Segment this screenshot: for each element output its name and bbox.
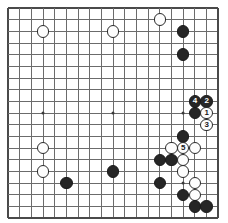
- stone-white[interactable]: [189, 177, 201, 189]
- stone-white[interactable]: [165, 142, 177, 154]
- stone-black-move-2[interactable]: 2: [200, 95, 212, 107]
- hoshi-point: [42, 112, 45, 115]
- stone-black[interactable]: [177, 130, 189, 142]
- stone-white[interactable]: [189, 142, 201, 154]
- stone-white[interactable]: [189, 189, 201, 201]
- stone-black[interactable]: [189, 107, 201, 119]
- stone-white[interactable]: [154, 13, 166, 25]
- go-board-diagram: 42135: [0, 0, 228, 223]
- stone-move-number: 2: [204, 97, 208, 105]
- stone-black-move-4[interactable]: 4: [189, 95, 201, 107]
- hoshi-point: [182, 112, 185, 115]
- stone-white[interactable]: [37, 25, 49, 37]
- stone-move-number: 1: [204, 109, 208, 117]
- stone-black[interactable]: [177, 189, 189, 201]
- stone-black[interactable]: [200, 200, 212, 212]
- stone-black[interactable]: [154, 154, 166, 166]
- stone-white-move-3[interactable]: 3: [200, 119, 212, 131]
- stone-white[interactable]: [37, 165, 49, 177]
- stone-white[interactable]: [177, 165, 189, 177]
- stone-move-number: 4: [193, 97, 197, 105]
- stone-move-number: 3: [204, 120, 208, 128]
- stone-white[interactable]: [177, 154, 189, 166]
- stone-white-move-1[interactable]: 1: [200, 107, 212, 119]
- stone-black[interactable]: [154, 177, 166, 189]
- stone-black[interactable]: [177, 48, 189, 60]
- stone-black[interactable]: [177, 25, 189, 37]
- stone-white[interactable]: [107, 25, 119, 37]
- stone-black[interactable]: [60, 177, 72, 189]
- stone-black[interactable]: [107, 165, 119, 177]
- stone-black[interactable]: [189, 200, 201, 212]
- hoshi-point: [182, 182, 185, 185]
- stone-black[interactable]: [165, 154, 177, 166]
- hoshi-point: [112, 112, 115, 115]
- stone-move-number: 5: [181, 144, 185, 152]
